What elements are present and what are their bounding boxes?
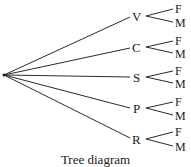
branch-root-p <box>4 75 130 108</box>
node-p: P <box>133 102 140 115</box>
branch-root-c <box>4 48 130 75</box>
node-r-m: M <box>175 141 186 153</box>
node-v: V <box>132 10 141 23</box>
node-p-f: F <box>175 96 182 108</box>
node-p-m: M <box>175 110 186 122</box>
node-v-m: M <box>175 17 186 29</box>
branch-root-v <box>4 17 130 75</box>
branch-root-r <box>4 75 130 138</box>
root-node <box>3 74 6 77</box>
branch-root-s <box>4 75 130 77</box>
node-s-m: M <box>175 78 186 90</box>
node-r: R <box>132 133 141 146</box>
node-c-m: M <box>175 48 186 60</box>
node-s-f: F <box>175 65 182 77</box>
node-s: S <box>133 71 140 84</box>
node-c: C <box>132 41 141 54</box>
node-v-f: F <box>175 3 182 15</box>
node-c-f: F <box>175 35 182 47</box>
node-r-f: F <box>175 126 182 138</box>
diagram-caption: Tree diagram <box>0 153 191 167</box>
tree-lines <box>0 0 191 167</box>
